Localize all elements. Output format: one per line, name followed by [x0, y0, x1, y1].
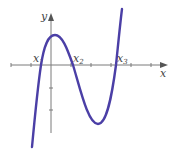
root-label-x3: x3 [117, 52, 128, 66]
y-axis-arrow-icon [48, 13, 54, 21]
x-axis-label: x [160, 67, 167, 80]
root-label-x2: x2 [73, 52, 84, 66]
cubic-curve [32, 9, 122, 147]
y-axis-label: y [40, 10, 48, 23]
y-axis: y [40, 10, 54, 133]
cubic-function-plot: x y x1 x2 x3 [0, 0, 178, 155]
